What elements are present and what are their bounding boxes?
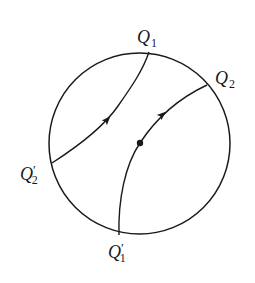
curve-q2prime-to-q1 [52,52,149,163]
label-q2-prime: Q′2 [20,162,38,187]
label-q2: Q2 [215,68,235,91]
circle-flow-diagram: Q1 Q2 Q′2 Q′1 [0,0,255,283]
label-q1: Q1 [137,27,157,50]
svg-text:Q2: Q2 [215,68,235,91]
fixed-point-dot [137,140,143,146]
curve-q1prime-to-q2 [119,85,207,235]
svg-text:Q′1: Q′1 [108,240,126,265]
label-q1-prime: Q′1 [108,240,126,265]
svg-text:Q′2: Q′2 [20,162,38,187]
direction-arrow-icon [157,109,168,120]
svg-text:Q1: Q1 [137,27,157,50]
